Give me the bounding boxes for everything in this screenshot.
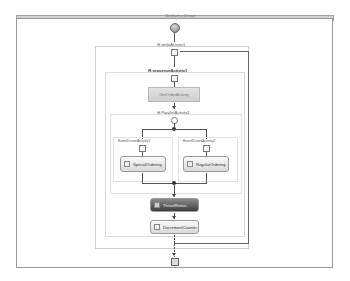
event-icon [139,145,146,152]
branch-1-label[interactable]: EventDrivenActivity1 [118,139,150,143]
loop-connector-bottom [174,243,249,244]
arrow-down-icon [172,194,176,197]
connector [174,32,175,42]
end-icon[interactable] [171,258,179,266]
activity-icon [154,224,160,230]
branch-2-label[interactable]: EventDrivenActivity2 [183,139,215,143]
throw-worker-activity[interactable]: ThrowWorker [150,198,199,212]
connector [174,56,175,67]
arrow-down-icon [172,253,176,256]
decrement-counter-activity[interactable]: DecrementCounter [150,220,199,234]
event-icon [203,145,210,152]
loop-connector-top [180,51,248,52]
activity-icon [124,161,130,167]
connector [206,173,207,183]
split-connector [142,129,206,130]
regular-ordering-activity[interactable]: RegularOrdering [183,156,229,172]
get-order-activity[interactable]: GetOrderActivity [148,87,200,102]
sequence-icon [171,75,178,82]
activity-icon [154,202,160,208]
connector [142,173,143,183]
start-icon[interactable] [170,23,180,33]
activity-icon [187,161,193,167]
loop-icon [171,49,178,56]
arrow-down-icon [172,106,176,109]
loop-connector-right [248,51,249,243]
special-ordering-activity[interactable]: SpecialOrdering [120,156,166,172]
arrow-down-icon [172,216,176,219]
